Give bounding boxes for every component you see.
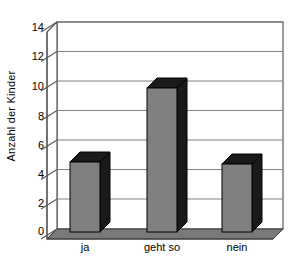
bar-ja [70, 152, 110, 232]
bar-geht-so [147, 78, 187, 232]
chart-canvas [0, 0, 298, 259]
bar-nein-front [222, 164, 252, 232]
bar-geht-so-front [147, 88, 177, 232]
x-category-label-ja: ja [60, 241, 110, 253]
x-category-label-nein: nein [212, 241, 262, 253]
bar-geht-so-side [177, 78, 187, 232]
x-category-label-geht-so: geht so [132, 241, 192, 253]
bar-ja-side [100, 152, 110, 232]
bar-nein-side [252, 154, 262, 232]
bar-chart: Anzahl der Kinder 14 12 10 8 6 4 2 0 [0, 0, 298, 259]
bar-ja-front [70, 162, 100, 232]
bar-nein [222, 154, 262, 232]
